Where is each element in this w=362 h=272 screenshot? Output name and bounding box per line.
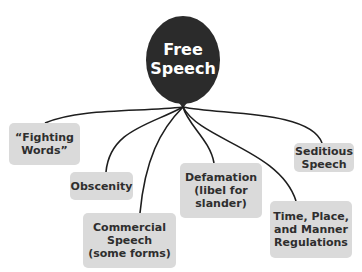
central-topic-label: Free Speech	[150, 40, 216, 78]
node-label: “Fighting Words”	[15, 131, 74, 157]
node-obscenity: Obscenity	[70, 172, 133, 200]
node-defamation: Defamation (libel for slander)	[180, 163, 262, 218]
node-commercial-speech: Commercial Speech (some forms)	[83, 213, 176, 268]
node-time-place-manner: Time, Place, and Manner Regulations	[270, 201, 352, 258]
node-seditious-speech: Seditious Speech	[294, 143, 354, 172]
node-label: Obscenity	[71, 180, 133, 193]
line-commercial	[140, 107, 183, 213]
line-fighting-words	[45, 107, 183, 123]
node-fighting-words: “Fighting Words”	[9, 123, 80, 165]
node-label: Seditious Speech	[295, 145, 353, 171]
node-label: Defamation (libel for slander)	[185, 171, 257, 210]
line-defamation	[183, 107, 214, 163]
line-obscenity	[106, 107, 183, 172]
central-topic: Free Speech	[146, 40, 220, 78]
node-label: Time, Place, and Manner Regulations	[273, 210, 349, 249]
node-label: Commercial Speech (some forms)	[88, 221, 171, 260]
line-seditious	[183, 107, 322, 143]
